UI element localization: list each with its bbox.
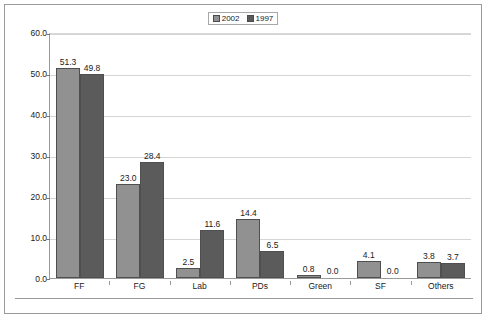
bar-group-SF: 4.10.0 [351, 34, 411, 278]
y-axis-tick-label: 10.0 [30, 233, 47, 243]
bar-slot: 0.8 [297, 34, 321, 278]
bar-group-Lab: 2.511.6 [170, 34, 230, 278]
bar-value-label: 0.0 [387, 266, 399, 276]
x-axis-category-Lab: Lab [170, 281, 230, 291]
bar-value-label: 3.7 [447, 252, 459, 262]
bar-slot: 2.5 [176, 34, 200, 278]
plot-area: 51.349.823.028.42.511.614.46.50.80.04.10… [49, 33, 471, 279]
y-axis: 0.010.020.030.040.050.060.0 [11, 33, 47, 279]
bar-group-Green: 0.80.0 [291, 34, 351, 278]
bar-slot: 11.6 [200, 34, 224, 278]
bar-value-label: 51.3 [60, 57, 77, 67]
bar-value-label: 28.4 [144, 151, 161, 161]
bar-slot: 0.0 [381, 34, 405, 278]
x-axis-divider [170, 281, 171, 285]
bar-slot: 23.0 [116, 34, 140, 278]
bar-slot: 51.3 [56, 34, 80, 278]
bar-Others-2002[interactable]: 3.8 [417, 262, 441, 278]
bar-value-label: 6.5 [267, 240, 279, 250]
y-axis-tick-label: 60.0 [30, 28, 47, 38]
bar-Lab-2002[interactable]: 2.5 [176, 268, 200, 278]
bar-value-label: 4.1 [363, 250, 375, 260]
x-axis-category-Others: Others [411, 281, 471, 291]
bar-PDs-1997[interactable]: 6.5 [260, 251, 284, 278]
y-axis-tick-label: 50.0 [30, 69, 47, 79]
bars-layer: 51.349.823.028.42.511.614.46.50.80.04.10… [50, 34, 471, 278]
x-axis-category-FG: FG [109, 281, 169, 291]
bar-FF-2002[interactable]: 51.3 [56, 68, 80, 278]
bar-value-label: 49.8 [84, 63, 101, 73]
bar-slot: 3.8 [417, 34, 441, 278]
bar-slot: 14.4 [236, 34, 260, 278]
bar-SF-2002[interactable]: 4.1 [357, 261, 381, 278]
plot-wrapper: 0.010.020.030.040.050.060.0 51.349.823.0… [5, 5, 483, 313]
bar-group-Others: 3.83.7 [411, 34, 471, 278]
x-axis-category-SF: SF [350, 281, 410, 291]
bar-FG-2002[interactable]: 23.0 [116, 184, 140, 278]
y-axis-tickmark [46, 279, 50, 280]
bar-value-label: 11.6 [204, 219, 220, 229]
bar-slot: 6.5 [260, 34, 284, 278]
bar-group-PDs: 14.46.5 [230, 34, 290, 278]
x-axis-divider [411, 281, 412, 285]
bar-value-label: 0.0 [327, 266, 339, 276]
bar-slot: 4.1 [357, 34, 381, 278]
bar-group-FF: 51.349.8 [50, 34, 110, 278]
y-axis-tick-label: 30.0 [30, 151, 47, 161]
bar-FF-1997[interactable]: 49.8 [80, 74, 104, 278]
bar-FG-1997[interactable]: 28.4 [140, 162, 164, 278]
bar-PDs-2002[interactable]: 14.4 [236, 219, 260, 278]
bar-value-label: 0.8 [303, 264, 315, 274]
x-axis: FFFGLabPDsGreenSFOthers [49, 281, 471, 291]
x-axis-baseline [15, 298, 473, 299]
x-axis-category-PDs: PDs [230, 281, 290, 291]
x-axis-divider [350, 281, 351, 285]
bar-group-FG: 23.028.4 [110, 34, 170, 278]
bar-slot: 0.0 [321, 34, 345, 278]
bar-slot: 28.4 [140, 34, 164, 278]
bar-slot: 49.8 [80, 34, 104, 278]
bar-value-label: 3.8 [423, 251, 435, 261]
bar-value-label: 14.4 [240, 208, 257, 218]
bar-Lab-1997[interactable]: 11.6 [200, 230, 224, 278]
x-axis-category-Green: Green [290, 281, 350, 291]
chart-frame: 0.010.020.030.040.050.060.0 51.349.823.0… [4, 4, 482, 314]
x-axis-divider [109, 281, 110, 285]
x-axis-category-FF: FF [49, 281, 109, 291]
bar-value-label: 2.5 [182, 257, 194, 267]
x-axis-divider [290, 281, 291, 285]
bar-slot: 3.7 [441, 34, 465, 278]
y-axis-tick-label: 40.0 [30, 110, 47, 120]
x-axis-divider [230, 281, 231, 285]
bar-value-label: 23.0 [120, 173, 137, 183]
y-axis-tick-label: 20.0 [30, 192, 47, 202]
bar-Green-2002[interactable]: 0.8 [297, 275, 321, 278]
bar-Others-1997[interactable]: 3.7 [441, 263, 465, 278]
